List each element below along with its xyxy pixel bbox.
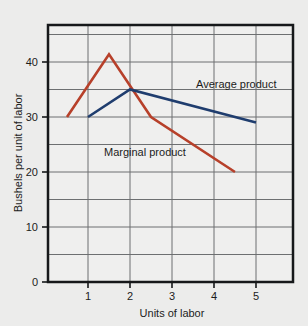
- x-tick-label-3: 3: [169, 290, 175, 302]
- y-tick-label-40: 40: [26, 56, 38, 68]
- y-tick-label-0: 0: [32, 276, 38, 288]
- x-tick-label-5: 5: [253, 290, 259, 302]
- x-tick-label-2: 2: [127, 290, 133, 302]
- x-tick-label-4: 4: [211, 290, 217, 302]
- y-axis-title: Bushels per unit of labor: [12, 93, 24, 212]
- series-annotation-marginal-product: Marginal product: [104, 146, 186, 158]
- chart-figure: 0 10 20 30 40 1 2 3 4 5 Average product …: [0, 0, 308, 326]
- y-tick-label-20: 20: [26, 166, 38, 178]
- y-tick-label-10: 10: [26, 221, 38, 233]
- x-axis-title: Units of labor: [140, 307, 205, 319]
- series-annotation-average-product: Average product: [196, 78, 277, 90]
- x-tick-label-1: 1: [85, 290, 91, 302]
- y-tick-label-30: 30: [26, 111, 38, 123]
- line-chart: 0 10 20 30 40 1 2 3 4 5 Average product …: [0, 0, 308, 326]
